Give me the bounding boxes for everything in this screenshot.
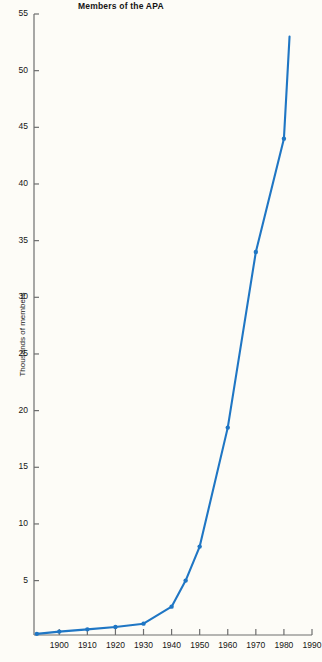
data-point-marker: [141, 621, 145, 625]
data-point-marker: [226, 425, 230, 429]
data-point-marker: [197, 544, 201, 548]
data-point-marker: [169, 604, 173, 608]
axes: [34, 14, 312, 635]
data-point-marker: [35, 632, 39, 636]
data-point-marker: [113, 625, 117, 629]
series-polyline: [37, 37, 290, 634]
data-point-marker: [183, 578, 187, 582]
chart-container: Members of the APA Thousands of members …: [0, 0, 322, 662]
data-point-marker: [282, 136, 286, 140]
data-point-marker: [85, 627, 89, 631]
data-point-marker: [57, 629, 61, 633]
x-axis-tick-marks: [59, 629, 312, 635]
data-series-line: [35, 37, 290, 636]
data-point-marker: [254, 250, 258, 254]
chart-plot-area: [0, 0, 322, 662]
y-axis-tick-marks: [34, 14, 39, 581]
series-data-point-markers: [35, 136, 287, 636]
